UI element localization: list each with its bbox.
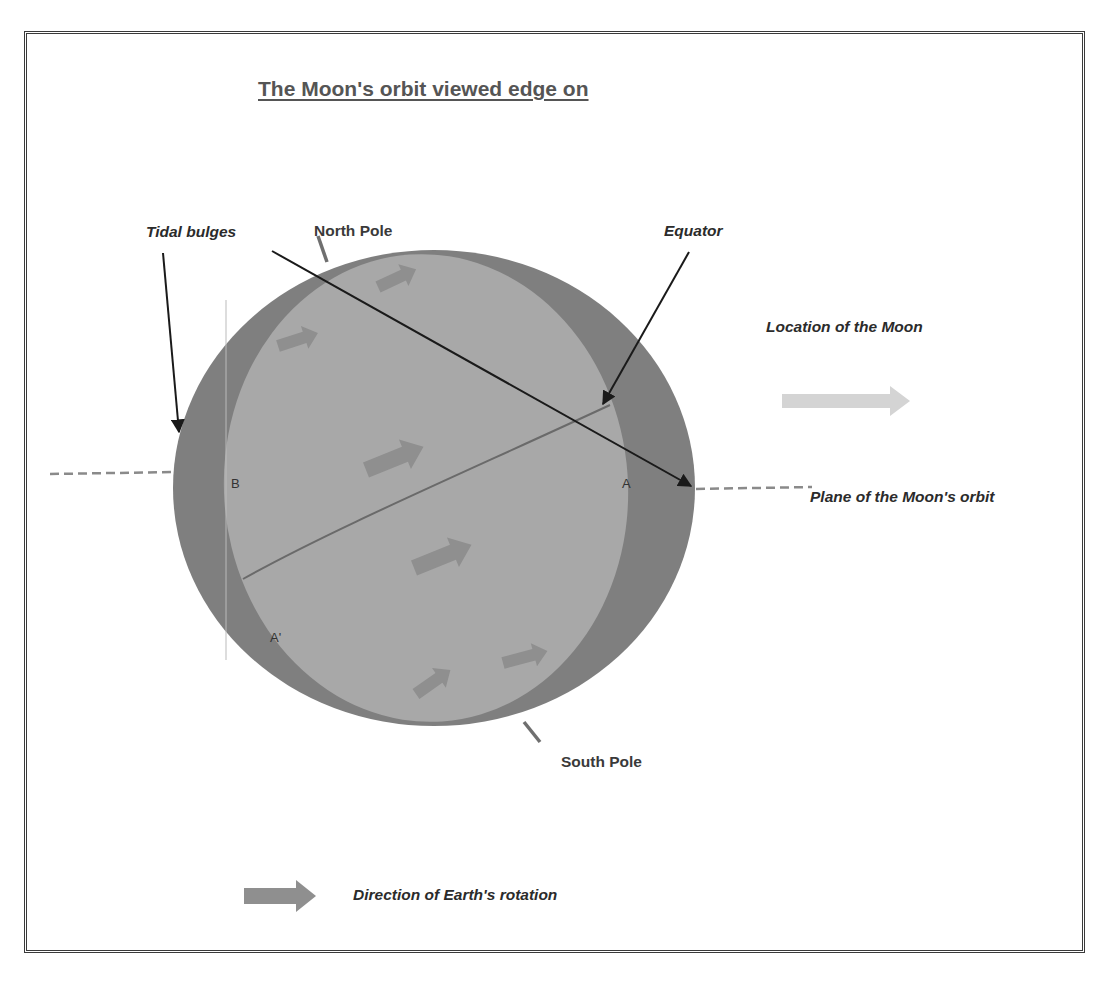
point-a-prime-label: A' <box>270 630 281 645</box>
equator-label: Equator <box>664 222 723 240</box>
point-b-label: B <box>231 476 240 491</box>
south-pole-label: South Pole <box>561 753 642 771</box>
legend-rotation-label: Direction of Earth's rotation <box>353 886 557 904</box>
diagram-title: The Moon's orbit viewed edge on <box>258 77 589 101</box>
tidal-bulges-pointer <box>163 253 179 432</box>
orbit-plane-left <box>50 472 175 474</box>
moon-direction-arrow-icon <box>782 386 910 416</box>
orbit-plane-label: Plane of the Moon's orbit <box>810 488 995 506</box>
legend-rotation-arrow-icon <box>244 880 316 912</box>
point-a-label: A <box>622 476 631 491</box>
location-of-moon-label: Location of the Moon <box>766 318 923 336</box>
orbit-plane-right <box>696 487 812 489</box>
south-pole-axis <box>524 722 540 742</box>
north-pole-label: North Pole <box>314 222 392 240</box>
tidal-bulges-label: Tidal bulges <box>146 223 236 241</box>
